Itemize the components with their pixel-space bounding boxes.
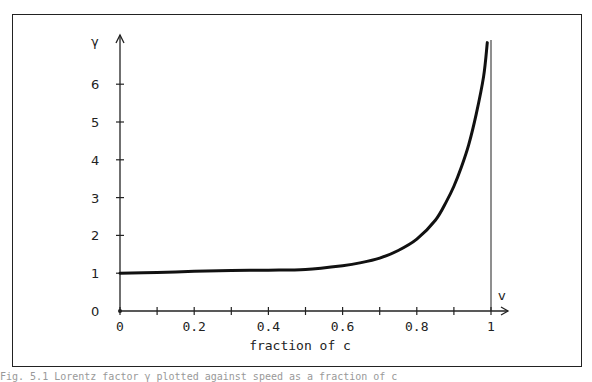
- tick-labels: 00.20.40.60.810123456: [91, 77, 495, 334]
- x-tick-label: 0.4: [257, 319, 281, 334]
- y-tick-label: 0: [91, 304, 99, 319]
- x-tick-label: 0.6: [331, 319, 354, 334]
- figure-caption: Fig. 5.1 Lorentz factor γ plotted agains…: [0, 371, 397, 382]
- x-axis-label: fraction of c: [249, 338, 351, 353]
- x-tick-label: 0.8: [405, 319, 428, 334]
- ticks: [116, 84, 491, 315]
- y-tick-label: 3: [91, 191, 99, 206]
- x-axis-end-label: v: [498, 288, 506, 303]
- x-tick-label: 1: [487, 319, 495, 334]
- y-tick-label: 1: [91, 266, 99, 281]
- y-tick-label: 4: [91, 153, 99, 168]
- gamma-curve: [120, 43, 487, 274]
- x-tick-label: 0.2: [182, 319, 205, 334]
- y-tick-label: 6: [91, 77, 99, 92]
- x-tick-label: 0: [116, 319, 124, 334]
- y-tick-label: 2: [91, 228, 99, 243]
- y-tick-label: 5: [91, 115, 99, 130]
- y-axis-label: γ: [91, 34, 99, 49]
